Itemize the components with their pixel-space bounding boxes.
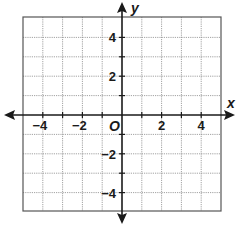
y-tick-label: −4	[101, 186, 117, 201]
x-tick-label: 2	[158, 118, 165, 133]
x-tick-label: 4	[198, 118, 206, 133]
y-tick-label: −2	[101, 147, 116, 162]
x-tick-label: −2	[72, 118, 87, 133]
y-axis-label: y	[130, 0, 140, 16]
origin-label: O	[109, 118, 120, 134]
y-tick-label: 4	[109, 30, 117, 45]
x-tick-label: −4	[32, 118, 48, 133]
x-axis-label: x	[226, 95, 236, 111]
y-tick-label: 2	[109, 69, 116, 84]
axes	[4, 2, 235, 224]
coordinate-plane: −4−22442−2−4 x y O	[0, 0, 239, 227]
